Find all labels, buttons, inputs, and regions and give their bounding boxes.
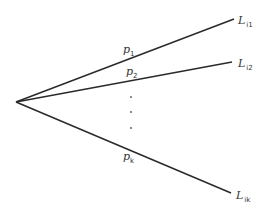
branch-line-k bbox=[16, 102, 231, 193]
probability-label-2: p2 bbox=[126, 65, 138, 80]
branch-line-2 bbox=[16, 62, 232, 102]
probability-symbol: p bbox=[126, 65, 133, 78]
probability-symbol: p bbox=[123, 43, 130, 56]
outcome-subscript: i1 bbox=[246, 21, 252, 29]
outcome-subscript: ik bbox=[244, 196, 251, 204]
probability-tree-diagram: p1 p2 pk Li1 Li2 Lik bbox=[0, 0, 268, 216]
probability-subscript: k bbox=[130, 157, 135, 165]
probability-subscript: 1 bbox=[130, 50, 134, 58]
outcome-symbol: L bbox=[237, 57, 245, 70]
ellipsis-dot-3 bbox=[130, 127, 132, 129]
outcome-subscript: i2 bbox=[246, 64, 252, 72]
probability-label-1: p1 bbox=[123, 43, 135, 58]
outcome-label-k: Lik bbox=[235, 189, 251, 204]
outcome-label-1: Li1 bbox=[237, 14, 253, 29]
outcome-symbol: L bbox=[235, 189, 243, 202]
outcome-label-2: Li2 bbox=[237, 57, 253, 72]
ellipsis-dot-1 bbox=[130, 96, 132, 98]
probability-symbol: p bbox=[123, 150, 130, 163]
outcome-symbol: L bbox=[237, 14, 245, 27]
ellipsis-dot-2 bbox=[130, 111, 132, 113]
probability-subscript: 2 bbox=[133, 72, 137, 80]
branch-line-1 bbox=[16, 19, 234, 102]
